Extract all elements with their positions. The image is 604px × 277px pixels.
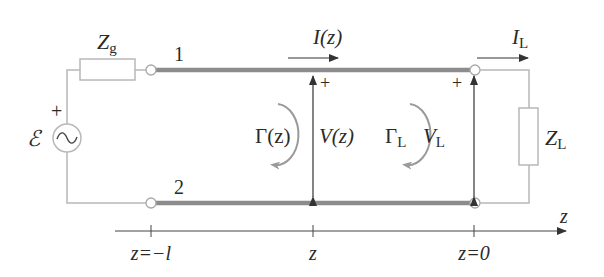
- z-axis: [115, 225, 566, 237]
- tick-label-z: z: [308, 242, 317, 264]
- tick-label-z-zero: z=0: [457, 242, 489, 264]
- voltage-load-label: VL: [423, 124, 445, 150]
- reflection-load-label: ΓL: [385, 124, 406, 150]
- current-line-label: I(z): [312, 25, 342, 49]
- generator-circuit: [53, 59, 146, 203]
- load-impedance-box: [519, 108, 538, 165]
- generator-impedance-box: [80, 59, 135, 80]
- terminal-load-bottom: [470, 198, 480, 208]
- wire-generator-bottom: [67, 152, 146, 203]
- wire-load-top: [480, 70, 529, 108]
- voltage-load-polarity: +: [452, 73, 462, 93]
- conductor-1-label: 1: [174, 43, 184, 65]
- transmission-line-diagram: Zg 1 2 + ℰ I(z) IL + + V(z) VL Γ(z) ΓL Z…: [0, 0, 604, 277]
- voltage-line-polarity: +: [320, 73, 330, 93]
- terminal-load-top: [470, 65, 480, 75]
- conductor-2-label: 2: [174, 176, 184, 198]
- wire-generator-top: [67, 70, 80, 124]
- z-axis-label: z: [559, 205, 568, 227]
- wire-load-bottom: [480, 165, 529, 203]
- generator-impedance-label: Zg: [97, 29, 117, 56]
- load-impedance-label: ZL: [545, 125, 566, 152]
- terminal-input-top: [146, 65, 156, 75]
- emf-label: ℰ: [27, 126, 43, 151]
- voltage-line-label: V(z): [319, 124, 354, 148]
- source-polarity-label: +: [51, 100, 62, 122]
- current-load-label: IL: [511, 25, 528, 51]
- reflection-line-label: Γ(z): [255, 124, 290, 148]
- tick-label-z-minus-l: z=−l: [130, 242, 172, 264]
- load-circuit: [480, 70, 538, 203]
- terminal-input-bottom: [146, 198, 156, 208]
